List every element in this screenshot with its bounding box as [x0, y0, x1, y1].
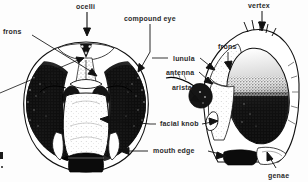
label-frons-left: frons [3, 28, 22, 35]
label-ocelli: ocelli [76, 3, 95, 10]
fly-head-anatomy-figure: ocelli compound eye vertex frons frons l… [0, 0, 308, 182]
label-genae: genae [268, 172, 289, 179]
label-antenna: antenna [166, 69, 194, 76]
label-arista: arista [172, 84, 192, 91]
anatomy-illustration [0, 0, 308, 182]
label-facial-knob: facial knob [160, 120, 199, 127]
label-lunula: lunula [173, 55, 195, 62]
label-frons-right: frons [218, 43, 237, 50]
label-vertex: vertex [248, 2, 270, 9]
label-mouth-edge: mouth edge [153, 147, 195, 154]
label-compound-eye: compound eye [124, 15, 176, 22]
